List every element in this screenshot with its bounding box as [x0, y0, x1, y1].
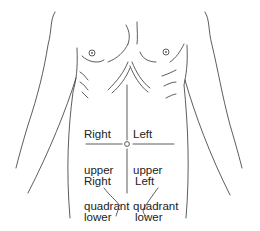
label-line: lower: [135, 211, 180, 223]
right-torso-side: [68, 48, 77, 218]
left-pectoral-outer: [170, 44, 184, 62]
left-nipple-icon: [163, 49, 169, 55]
right-pectoral-inner: [108, 44, 128, 62]
sternum-left: [132, 62, 150, 88]
right-nipple-icon: [89, 50, 95, 56]
left-rib-3: [166, 94, 176, 98]
right-rib-1: [80, 72, 88, 80]
right-pectoral: [82, 56, 104, 62]
left-rib-2: [164, 82, 176, 86]
right-arm-outline: [16, 12, 55, 168]
label-line: Right: [84, 175, 129, 187]
left-pectoral: [140, 52, 156, 62]
label-line: lower: [84, 211, 129, 223]
left-rib-1: [162, 70, 176, 76]
neck-right: [126, 25, 129, 44]
torso-outline-drawing: [0, 0, 260, 231]
label-line: Left: [135, 175, 180, 187]
right-rib-3: [82, 92, 88, 98]
label-right-lower-quadrant: Right lower quadrant: [84, 151, 129, 231]
left-nipple-dot: [165, 51, 166, 52]
sternum-right: [108, 62, 128, 90]
label-left-lower-quadrant: Left lower quadrant: [135, 151, 180, 231]
left-arm-outline: [205, 12, 242, 168]
label-line: Left: [133, 128, 178, 140]
right-rib-2: [80, 82, 88, 90]
left-torso-side: [184, 45, 188, 218]
label-line: Right: [84, 128, 129, 140]
right-nipple-dot: [91, 52, 92, 53]
sternum-left-2: [130, 66, 148, 92]
